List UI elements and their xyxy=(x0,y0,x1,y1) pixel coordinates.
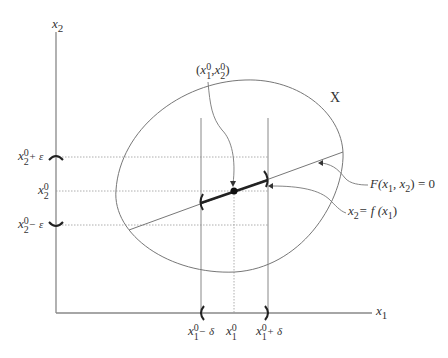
tick-sub: 2 xyxy=(44,191,49,200)
curve-label-mid: , x xyxy=(393,176,405,191)
tick-suffix: − ε xyxy=(29,218,44,230)
x-tick-x1-minus-delta: x01− δ xyxy=(188,323,214,341)
y-tick-x2-minus-eps: x02− ε xyxy=(18,216,43,234)
region-label: X xyxy=(330,90,340,106)
curve-label-F: F xyxy=(370,176,378,191)
x-axis-label-sub: 1 xyxy=(382,309,388,321)
curve-label-open: (x xyxy=(378,176,388,191)
tick-suffix: + δ xyxy=(267,325,282,337)
x-tick-x1-plus-delta: x01+ δ xyxy=(256,323,282,341)
x-axis-label: x1 xyxy=(376,303,387,321)
y-axis-label-sub: 2 xyxy=(58,22,64,34)
tick-sub: 1 xyxy=(232,332,237,341)
function-label: x2= f (x1) xyxy=(348,203,397,221)
y-tick-x2-plus-eps: x02+ ε xyxy=(18,148,43,166)
y-tick-x2: x02 xyxy=(38,182,49,200)
x-tick-x1: x01 xyxy=(226,323,237,341)
tick-suffix: + ε xyxy=(29,150,44,162)
y-axis-label: x2 xyxy=(52,16,63,34)
point-label-close: ) xyxy=(225,62,229,77)
curve-label-close: ) = 0 xyxy=(410,176,435,191)
function-label-eq: = f (x xyxy=(359,203,388,218)
function-label-close: ) xyxy=(393,203,397,218)
point-label: (x01,x02) xyxy=(196,62,230,80)
tick-suffix: − δ xyxy=(199,325,214,337)
curve-label: F(x1, x2) = 0 xyxy=(370,176,435,194)
